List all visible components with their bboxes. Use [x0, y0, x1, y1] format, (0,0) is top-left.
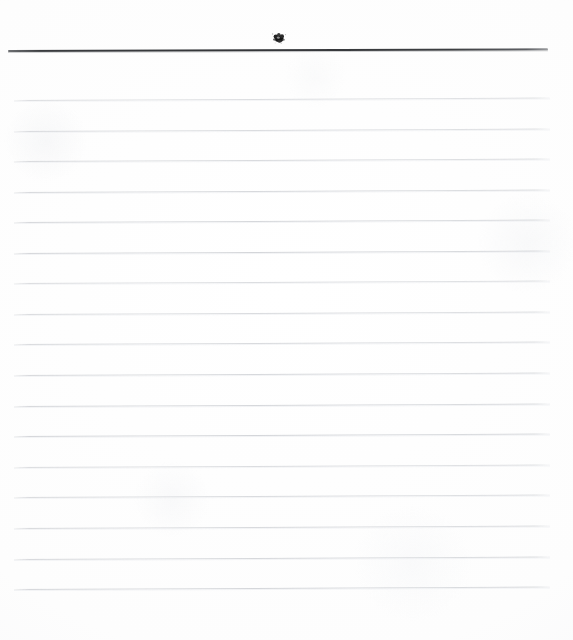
writing-lines [0, 0, 573, 640]
writing-line [14, 465, 550, 468]
top-margin-rule [8, 48, 548, 52]
writing-line [14, 190, 550, 193]
writing-line [14, 373, 550, 376]
writing-line [14, 557, 550, 560]
writing-line [14, 98, 550, 101]
writing-line [14, 129, 550, 132]
writing-line [14, 587, 550, 590]
writing-line [14, 495, 550, 498]
ink-smudge-shape [270, 30, 288, 45]
writing-line [14, 159, 550, 162]
paper-mottle [0, 0, 573, 640]
writing-line [14, 526, 550, 529]
ruled-paper-page [0, 0, 573, 640]
writing-line [14, 342, 550, 345]
writing-line [14, 404, 550, 407]
writing-line [14, 220, 550, 223]
writing-line [14, 312, 550, 315]
writing-line [14, 434, 550, 437]
writing-line [14, 251, 550, 254]
paper-texture [0, 0, 573, 640]
writing-line [14, 281, 550, 284]
ink-smudge-icon [270, 30, 288, 45]
